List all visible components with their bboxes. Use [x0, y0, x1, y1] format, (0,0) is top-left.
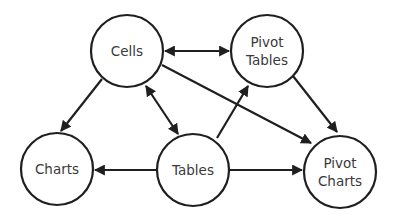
node-cells: Cells	[91, 15, 163, 87]
node-label: Pivot	[250, 34, 283, 50]
node-label: Cells	[111, 43, 143, 59]
node-label: Tables	[245, 52, 288, 68]
node-label: Tables	[171, 162, 214, 178]
node-pivot-charts: Pivot Charts	[304, 136, 376, 208]
node-label: Pivot	[323, 155, 356, 171]
edge-tables-pivot-tables	[217, 86, 248, 138]
node-circle	[304, 136, 376, 208]
edge-pivot-tables-pivot-charts	[293, 76, 337, 132]
diagram-canvas: Cells Pivot Tables Charts Tables Pivot C…	[0, 0, 394, 219]
node-tables: Tables	[157, 134, 229, 206]
node-label: Charts	[318, 173, 362, 189]
node-charts: Charts	[21, 133, 93, 205]
edge-cells-tables	[146, 86, 178, 134]
edge-cells-charts	[61, 79, 102, 131]
node-circle	[231, 15, 303, 87]
node-label: Charts	[35, 161, 79, 177]
node-pivot-tables: Pivot Tables	[231, 15, 303, 87]
